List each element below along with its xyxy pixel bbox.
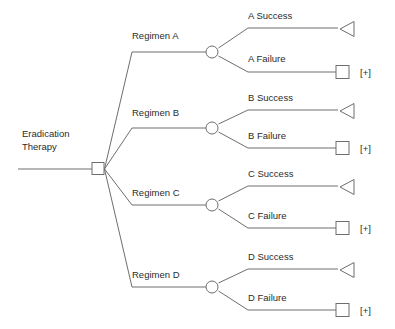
- outcome-label-a-failure: A Failure: [248, 53, 286, 64]
- branch-line-c-success[interactable]: [219, 186, 339, 201]
- root-decision-node[interactable]: [92, 163, 104, 175]
- outcome-label-b-success: B Success: [248, 92, 293, 103]
- outcome-label-d-failure: D Failure: [248, 292, 287, 303]
- branch-label-regimen-c: Regimen C: [132, 187, 180, 198]
- terminal-triangle-a-success[interactable]: [340, 22, 354, 37]
- terminal-triangle-c-success[interactable]: [340, 180, 354, 195]
- outcome-label-d-success: D Success: [248, 251, 294, 262]
- branch-line-b-success[interactable]: [219, 110, 339, 124]
- chance-node-regimen-a[interactable]: [206, 46, 218, 58]
- outcome-label-a-success: A Success: [248, 10, 293, 21]
- chance-node-regimen-d[interactable]: [206, 281, 218, 293]
- chance-node-regimen-b[interactable]: [206, 122, 218, 134]
- branch-line-d-success[interactable]: [219, 269, 339, 283]
- branch-label-regimen-b: Regimen B: [132, 107, 179, 118]
- collapsed-marker-a-failure[interactable]: [+]: [360, 67, 371, 78]
- collapsed-node-b-failure[interactable]: [336, 142, 349, 155]
- root-label-line1: Eradication: [22, 128, 70, 139]
- chance-node-regimen-c[interactable]: [206, 199, 218, 211]
- outcome-label-c-success: C Success: [248, 168, 294, 179]
- branch-line-a-success[interactable]: [219, 28, 339, 48]
- decision-tree-canvas: Eradication Therapy Regimen A A Success …: [0, 0, 395, 329]
- collapsed-marker-b-failure[interactable]: [+]: [360, 143, 371, 154]
- terminal-triangle-d-success[interactable]: [340, 263, 354, 278]
- terminal-triangle-b-success[interactable]: [340, 104, 354, 119]
- collapsed-marker-c-failure[interactable]: [+]: [360, 223, 371, 234]
- outcome-label-b-failure: B Failure: [248, 130, 286, 141]
- collapsed-marker-d-failure[interactable]: [+]: [360, 305, 371, 316]
- branch-label-regimen-a: Regimen A: [132, 30, 179, 41]
- branch-line-regimen-b[interactable]: [105, 128, 207, 169]
- collapsed-node-d-failure[interactable]: [336, 304, 349, 317]
- branch-label-regimen-d: Regimen D: [132, 269, 180, 280]
- collapsed-node-c-failure[interactable]: [336, 222, 349, 235]
- outcome-label-c-failure: C Failure: [248, 210, 287, 221]
- root-label-line2: Therapy: [22, 141, 57, 152]
- collapsed-node-a-failure[interactable]: [336, 66, 349, 79]
